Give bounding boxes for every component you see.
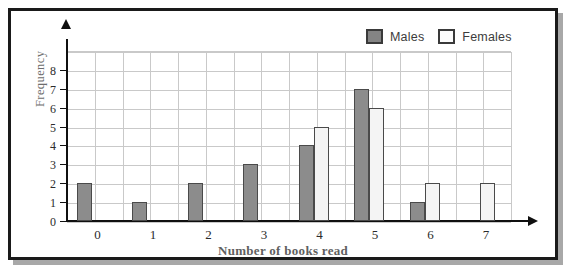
figure-canvas: Males Females Frequency 012345678 012345… bbox=[11, 11, 555, 257]
bar-males-1 bbox=[132, 202, 147, 221]
y-axis-tick-label: 6 bbox=[50, 101, 56, 116]
chart-legend: Males Females bbox=[366, 29, 512, 44]
legend-label-females: Females bbox=[462, 30, 511, 44]
bar-males-6 bbox=[410, 202, 425, 221]
y-axis-tick: 4 bbox=[60, 145, 67, 146]
legend-label-males: Males bbox=[390, 30, 424, 44]
y-axis-tick-label: 7 bbox=[50, 82, 56, 97]
y-axis-tick-label: 4 bbox=[50, 139, 56, 154]
y-axis-line bbox=[66, 39, 68, 221]
gridline-vertical bbox=[456, 52, 457, 221]
bar-females-7 bbox=[480, 183, 495, 221]
plot-area: 012345678 01234567 bbox=[67, 51, 511, 221]
x-axis-tick-label: 0 bbox=[94, 227, 101, 243]
x-axis-tick-label: 7 bbox=[483, 227, 490, 243]
x-axis-tick-label: 1 bbox=[150, 227, 157, 243]
y-axis-tick: 8 bbox=[60, 70, 67, 71]
chart-grid bbox=[67, 51, 511, 221]
x-axis-tick-label: 2 bbox=[205, 227, 212, 243]
y-axis-tick-label: 5 bbox=[50, 120, 56, 135]
bar-males-0 bbox=[77, 183, 92, 221]
bar-males-2 bbox=[188, 183, 203, 221]
y-axis-tick: 5 bbox=[60, 127, 67, 128]
x-axis-tick-label: 4 bbox=[316, 227, 323, 243]
x-axis-tick-label: 5 bbox=[372, 227, 379, 243]
y-axis-title: Frequency bbox=[33, 51, 48, 107]
y-axis-tick: 7 bbox=[60, 89, 67, 90]
y-axis-tick-label: 8 bbox=[50, 63, 56, 78]
figure-frame: Males Females Frequency 012345678 012345… bbox=[8, 8, 558, 260]
y-axis-tick: 6 bbox=[60, 108, 67, 109]
y-axis-tick-label: 0 bbox=[50, 215, 56, 230]
bar-females-6 bbox=[425, 183, 440, 221]
males-swatch-icon bbox=[366, 29, 383, 44]
y-axis-tick: 1 bbox=[60, 202, 67, 203]
gridline-vertical bbox=[234, 52, 235, 221]
gridline-vertical bbox=[206, 52, 207, 221]
y-axis-arrow-icon bbox=[61, 19, 71, 29]
legend-item-females: Females bbox=[438, 29, 511, 44]
gridline-horizontal bbox=[67, 222, 511, 223]
y-axis-tick-label: 3 bbox=[50, 158, 56, 173]
y-axis-tick: 3 bbox=[60, 164, 67, 165]
gridline-vertical bbox=[400, 52, 401, 221]
bar-males-4 bbox=[299, 145, 314, 221]
gridline-vertical bbox=[345, 52, 346, 221]
x-axis-tick-label: 6 bbox=[427, 227, 434, 243]
legend-item-males: Males bbox=[366, 29, 424, 44]
bar-males-5 bbox=[354, 89, 369, 221]
y-axis-tick-label: 1 bbox=[50, 196, 56, 211]
y-axis-tick-label: 2 bbox=[50, 177, 56, 192]
gridline-vertical bbox=[511, 52, 512, 221]
females-swatch-icon bbox=[438, 29, 455, 44]
bar-females-5 bbox=[369, 108, 384, 221]
x-axis-title: Number of books read bbox=[11, 243, 555, 259]
x-axis-arrow-icon bbox=[528, 216, 538, 226]
x-axis-tick-label: 3 bbox=[261, 227, 268, 243]
bar-males-3 bbox=[243, 164, 258, 221]
y-axis-tick: 0 bbox=[60, 221, 67, 222]
bar-females-4 bbox=[314, 127, 329, 221]
gridline-vertical bbox=[261, 52, 262, 221]
gridline-vertical bbox=[178, 52, 179, 221]
gridline-vertical bbox=[95, 52, 96, 221]
gridline-vertical bbox=[150, 52, 151, 221]
gridline-vertical bbox=[123, 52, 124, 221]
gridline-vertical bbox=[289, 52, 290, 221]
y-axis-tick: 2 bbox=[60, 183, 67, 184]
